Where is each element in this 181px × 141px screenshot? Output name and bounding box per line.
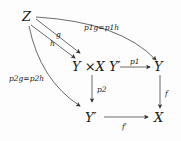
label-f: f xyxy=(165,90,168,98)
label-p1: p1 xyxy=(130,58,140,66)
label-h: h xyxy=(50,40,55,48)
label-top-curve: p1g=p1h xyxy=(84,24,119,32)
label-p2: p2 xyxy=(97,86,107,94)
label-f-prime: f′ xyxy=(122,123,126,131)
label-left-curve: p2g=p2h xyxy=(9,75,44,83)
node-pullback: Y ×X Y′ xyxy=(72,60,121,73)
node-z: Z xyxy=(22,10,31,23)
label-g: g xyxy=(56,31,61,39)
pullback-diagram: Z Y ×X Y′ Y Y′ X g h p1g=p1h p2g=p2h p1 … xyxy=(0,0,181,141)
node-x: X xyxy=(154,111,163,124)
node-y: Y xyxy=(154,60,163,73)
node-y-prime: Y′ xyxy=(85,111,97,124)
